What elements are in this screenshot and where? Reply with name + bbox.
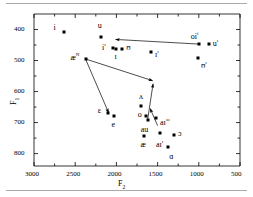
data-point-label: iɪ bbox=[102, 42, 106, 52]
data-point-label: æ bbox=[141, 141, 146, 149]
data-point-label-superscript: ɪ bbox=[217, 38, 218, 43]
y-tick-label: 400 bbox=[14, 26, 25, 33]
data-point-label: ɪɪ bbox=[155, 49, 159, 59]
arrow-ae-to-mid bbox=[86, 59, 153, 81]
data-point-label: e bbox=[112, 121, 116, 129]
x-tick-label: 1500 bbox=[149, 171, 163, 178]
data-point-label: aɪʌɪ bbox=[160, 117, 170, 127]
y-axis-title-sub: 1 bbox=[14, 98, 20, 101]
data-point-label-base: au bbox=[141, 125, 149, 134]
data-point-label: ɔ bbox=[178, 130, 182, 138]
plot-vector-layer bbox=[0, 0, 253, 197]
data-point-label: æN bbox=[71, 52, 80, 62]
data-point-label: au bbox=[141, 126, 149, 134]
data-point-label: i bbox=[53, 24, 55, 32]
data-point-marker bbox=[150, 50, 153, 53]
figure-page: iuiɪɪʊɪɪoiiuɪʊɪæNʌɛeoauaɪʌɪæaɪɪɔɑ 300025… bbox=[0, 0, 253, 197]
data-point-marker bbox=[99, 36, 102, 39]
data-point-label: ʌ bbox=[139, 93, 143, 101]
data-point-label: o bbox=[138, 111, 142, 119]
data-point-label-base: e bbox=[112, 120, 116, 129]
data-point-label-superscript: ɪ bbox=[104, 42, 105, 47]
data-point-marker bbox=[207, 43, 210, 46]
data-point-marker bbox=[121, 47, 124, 50]
arrow-group bbox=[86, 39, 199, 125]
data-point-marker bbox=[84, 57, 87, 60]
data-point-marker bbox=[112, 115, 115, 118]
data-point-marker bbox=[106, 111, 109, 114]
data-point-label-base: i bbox=[53, 23, 55, 32]
data-point-label: ɛ bbox=[98, 107, 101, 115]
data-point-label-superscript: ɪ bbox=[157, 49, 158, 54]
data-point-marker bbox=[167, 146, 170, 149]
x-axis-title: F2 bbox=[118, 180, 125, 191]
data-point-label-base: ʊ bbox=[126, 43, 130, 52]
data-point-marker bbox=[142, 134, 145, 137]
data-point-label: uɪ bbox=[213, 38, 218, 48]
data-point-label-base: ɔ bbox=[178, 129, 182, 138]
data-point-label-superscript: ɪ bbox=[205, 60, 206, 65]
data-point-label-base: ʌ bbox=[139, 92, 143, 101]
data-point-label-base: ɑ bbox=[169, 152, 173, 161]
data-point-label: ɑ bbox=[169, 153, 173, 161]
data-point-label: aɪɪ bbox=[156, 139, 163, 149]
y-tick-label: 700 bbox=[14, 119, 25, 126]
arrow-ae-to-epsilon bbox=[86, 59, 109, 113]
x-tick-label: 2000 bbox=[107, 171, 121, 178]
x-tick-label: 500 bbox=[231, 171, 242, 178]
data-point-marker bbox=[196, 56, 199, 59]
x-tick-label: 3000 bbox=[25, 171, 39, 178]
data-point-label-base: o bbox=[138, 110, 142, 119]
data-point-marker bbox=[173, 133, 176, 136]
data-point-marker bbox=[154, 117, 157, 120]
y-axis-title: F1 bbox=[10, 98, 21, 105]
scatter-plot: iuiɪɪʊɪɪoiiuɪʊɪæNʌɛeoauaɪʌɪæaɪɪɔɑ 300025… bbox=[0, 0, 253, 197]
data-point-label: ʊ bbox=[126, 44, 130, 52]
data-point-marker bbox=[197, 43, 200, 46]
data-point-label: oii bbox=[191, 31, 199, 41]
data-point-label: ʊɪ bbox=[201, 60, 207, 70]
data-point-label-base: æ bbox=[141, 140, 146, 149]
data-point-label: ɪ bbox=[115, 53, 117, 61]
y-tick-label: 600 bbox=[14, 88, 25, 95]
data-point-label: u bbox=[98, 22, 102, 30]
x-tick-label: 2500 bbox=[66, 171, 80, 178]
data-point-marker bbox=[146, 118, 149, 121]
data-point-marker bbox=[63, 30, 66, 33]
data-point-marker bbox=[144, 115, 147, 118]
x-tick-label: 1000 bbox=[190, 171, 204, 178]
y-tick-label: 800 bbox=[14, 150, 25, 157]
y-tick-label: 500 bbox=[14, 57, 25, 64]
data-point-label-superscript: ɪ bbox=[162, 139, 163, 144]
data-point-label-superscript: ʌɪ bbox=[166, 117, 170, 122]
axis-frame bbox=[34, 14, 240, 166]
data-point-label-base: u bbox=[98, 21, 102, 30]
y-axis-title-text: F bbox=[9, 101, 18, 105]
data-point-label-superscript: N bbox=[76, 52, 80, 57]
data-point-marker bbox=[159, 131, 162, 134]
data-point-marker bbox=[114, 48, 117, 51]
data-point-label-base: ɛ bbox=[98, 106, 101, 115]
x-axis-title-sub: 2 bbox=[122, 184, 125, 190]
data-point-marker bbox=[140, 104, 143, 107]
data-point-label-base: ɪ bbox=[115, 52, 117, 61]
data-point-label-superscript: i bbox=[197, 31, 198, 36]
